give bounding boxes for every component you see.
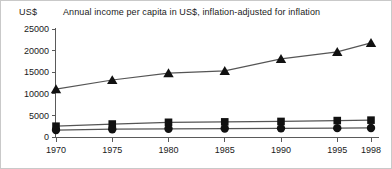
data-point-triangle [366,38,376,47]
x-tick-label: 1970 [46,145,66,155]
data-point-circle [164,125,172,133]
data-point-circle [108,125,116,133]
x-tick-label: 1975 [102,145,122,155]
x-tick-label: 1995 [327,145,347,155]
y-tick-marks [52,29,56,137]
chart-figure: US$ Annual income per capita in US$, inf… [0,0,392,169]
x-tick-label: 1990 [271,145,291,155]
x-axis-group: 1970197519801985199019951998 [46,138,381,156]
y-tick-label: 25000 [24,24,49,34]
data-point-square [367,116,375,124]
y-tick-label: 0 [44,132,49,142]
y-tick-label: 5000 [29,111,49,121]
data-point-circle [221,124,229,132]
x-tick-labels: 1970197519801985199019951998 [46,145,381,155]
series-line-square [56,120,371,126]
y-tick-labels: 0500010000150002000025000 [24,24,49,142]
data-point-square [277,118,285,126]
x-tick-marks [56,138,371,142]
series-markers [51,38,376,134]
data-point-circle [52,126,60,134]
series-lines [56,43,371,130]
series-line-triangle [56,43,371,89]
y-tick-label: 20000 [24,46,49,56]
y-axis-group: 0500010000150002000025000 [24,24,56,142]
x-tick-label: 1985 [215,145,235,155]
y-tick-label: 15000 [24,67,49,77]
y-tick-label: 10000 [24,89,49,99]
x-tick-label: 1998 [361,145,381,155]
data-point-circle [277,124,285,132]
plot-area: 0500010000150002000025000 19701975198019… [1,1,392,169]
data-point-square [333,117,341,125]
data-point-circle [333,124,341,132]
series-line-circle [56,128,371,130]
data-point-circle [367,124,375,132]
x-tick-label: 1980 [158,145,178,155]
